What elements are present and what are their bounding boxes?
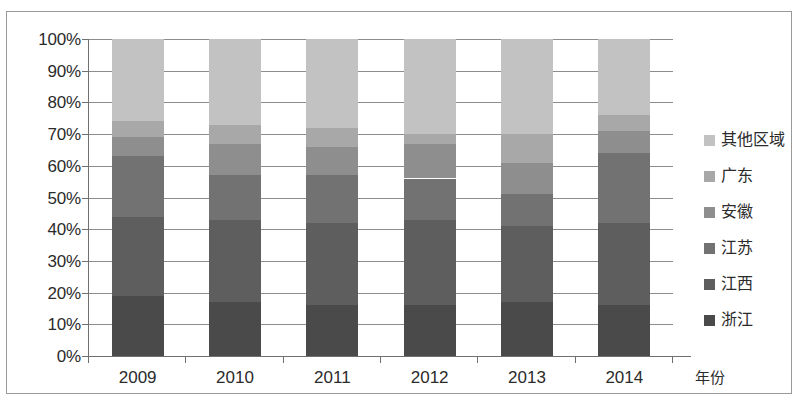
- legend-swatch-icon: [704, 171, 715, 182]
- gridline: [89, 102, 673, 103]
- y-axis-tick-label: 40%: [19, 221, 81, 238]
- legend-swatch-icon: [704, 279, 715, 290]
- x-axis-tick: [672, 357, 673, 363]
- x-axis-tick-label: 2014: [579, 369, 669, 386]
- legend-swatch-icon: [704, 243, 715, 254]
- bar-segment: [404, 220, 456, 306]
- y-axis-tick: [82, 71, 88, 72]
- y-axis-tick: [82, 102, 88, 103]
- bar-segment: [404, 305, 456, 356]
- chart-frame: 0%10%20%30%40%50%60%70%80%90%100% 200920…: [6, 11, 792, 394]
- bar-segment: [598, 153, 650, 223]
- gridline: [89, 293, 673, 294]
- legend-label: 广东: [721, 168, 753, 184]
- y-axis-tick-label: 80%: [19, 94, 81, 111]
- y-axis-tick: [82, 229, 88, 230]
- gridline: [89, 261, 673, 262]
- x-axis-tick: [88, 357, 89, 363]
- bar-segment: [598, 305, 650, 356]
- bar-segment: [209, 144, 261, 176]
- bar-segment: [404, 144, 456, 179]
- bar-segment: [112, 121, 164, 137]
- y-axis-tick-label: 10%: [19, 316, 81, 333]
- stacked-bar: [306, 39, 358, 356]
- stacked-bar: [501, 39, 553, 356]
- legend-item: 江苏: [704, 230, 799, 266]
- bar-segment: [501, 302, 553, 356]
- x-axis-tick-label: 2011: [287, 369, 377, 386]
- y-axis-tick: [82, 39, 88, 40]
- bar-segment: [209, 125, 261, 144]
- bar-segment: [306, 39, 358, 128]
- bar-segment: [598, 223, 650, 305]
- bar-segment: [112, 137, 164, 156]
- legend-item: 江西: [704, 266, 799, 302]
- bar-segment: [112, 296, 164, 356]
- y-axis-tick-label: 90%: [19, 62, 81, 79]
- x-axis-tick: [575, 357, 576, 363]
- legend-item: 浙江: [704, 302, 799, 338]
- bar-segment: [501, 39, 553, 134]
- chart-legend: 其他区域广东安徽江苏江西浙江: [704, 122, 799, 338]
- y-axis-tick: [82, 198, 88, 199]
- stacked-bar: [404, 39, 456, 356]
- legend-swatch-icon: [704, 315, 715, 326]
- y-axis-tick-label: 70%: [19, 126, 81, 143]
- y-axis-tick-label: 0%: [19, 348, 81, 365]
- x-axis-tick: [477, 357, 478, 363]
- y-axis-tick-label: 20%: [19, 284, 81, 301]
- legend-label: 浙江: [721, 312, 753, 328]
- bar-segment: [598, 131, 650, 153]
- bar-segment: [404, 134, 456, 144]
- bar-segment: [404, 39, 456, 134]
- gridline: [89, 134, 673, 135]
- y-axis-tick: [82, 324, 88, 325]
- y-axis-tick-label: 60%: [19, 157, 81, 174]
- bar-segment: [209, 175, 261, 219]
- stacked-bar: [209, 39, 261, 356]
- plot-area: [89, 39, 673, 356]
- gridline: [89, 198, 673, 199]
- bar-segment: [501, 226, 553, 302]
- bar-segment: [306, 305, 358, 356]
- legend-item: 广东: [704, 158, 799, 194]
- x-axis-tick: [185, 357, 186, 363]
- y-axis-tick-label: 50%: [19, 189, 81, 206]
- stacked-bar: [112, 39, 164, 356]
- bar-segment: [598, 115, 650, 131]
- x-axis-tick: [380, 357, 381, 363]
- y-axis-tick: [82, 134, 88, 135]
- x-axis-tick-label: 2012: [385, 369, 475, 386]
- legend-swatch-icon: [704, 135, 715, 146]
- y-axis-tick-label: 100%: [19, 31, 81, 48]
- bar-segment: [404, 179, 456, 220]
- x-axis-tick-label: 2009: [93, 369, 183, 386]
- bar-segment: [209, 302, 261, 356]
- gridline: [89, 229, 673, 230]
- bar-segment: [209, 39, 261, 125]
- bar-segment: [501, 163, 553, 195]
- x-axis-line: [88, 356, 691, 357]
- x-axis-tick-label: 2013: [482, 369, 572, 386]
- legend-label: 江苏: [721, 240, 753, 256]
- y-axis-tick: [82, 166, 88, 167]
- bar-segment: [306, 223, 358, 305]
- y-axis-labels: 0%10%20%30%40%50%60%70%80%90%100%: [15, 39, 81, 356]
- y-axis-tick: [82, 293, 88, 294]
- gridline: [89, 39, 673, 40]
- y-axis-tick-label: 30%: [19, 252, 81, 269]
- bar-segment: [112, 156, 164, 216]
- stacked-bar: [598, 39, 650, 356]
- bar-segment: [112, 217, 164, 296]
- gridline: [89, 324, 673, 325]
- gridline: [89, 166, 673, 167]
- bar-segment: [598, 39, 650, 115]
- x-axis-tick-label: 2010: [190, 369, 280, 386]
- bar-segment: [112, 39, 164, 121]
- legend-swatch-icon: [704, 207, 715, 218]
- bar-segment: [501, 134, 553, 163]
- x-axis-title: 年份: [695, 370, 725, 385]
- bar-segment: [306, 147, 358, 176]
- legend-item: 安徽: [704, 194, 799, 230]
- legend-item: 其他区域: [704, 122, 799, 158]
